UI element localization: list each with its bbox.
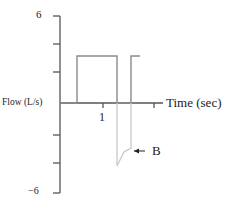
flow-waveform <box>60 56 140 103</box>
x-axis-label: Time (sec) <box>166 96 222 109</box>
y-max-label: 6 <box>36 9 42 20</box>
flow-time-chart: 6 −6 Flow (L/s) Time (sec) 1 B <box>0 0 230 204</box>
y-axis-label: Flow (L/s) <box>2 98 42 108</box>
expiratory-curve <box>117 103 131 166</box>
annotation-b: B <box>152 144 161 157</box>
x-tick-1-label: 1 <box>99 111 105 123</box>
y-min-label: −6 <box>28 186 39 196</box>
